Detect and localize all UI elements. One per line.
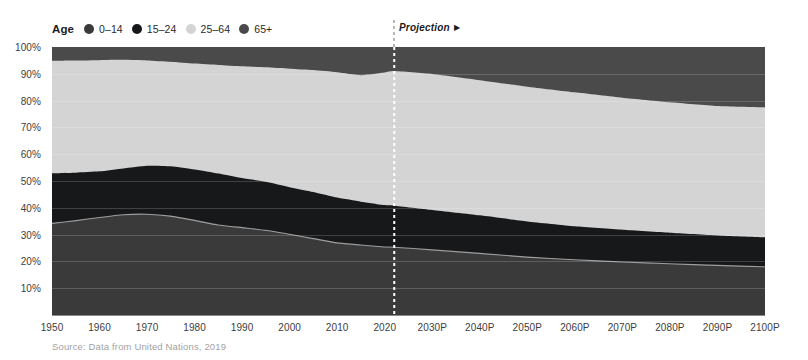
legend-item-15-24[interactable]: 15–24 <box>132 23 177 35</box>
circle-swatch-icon <box>132 24 142 34</box>
y-gridline <box>52 101 765 102</box>
legend-label: 65+ <box>254 23 272 35</box>
circle-swatch-icon <box>84 24 94 34</box>
y-axis-tick-label: 40% <box>21 202 41 213</box>
y-axis-tick-label: 50% <box>21 176 41 187</box>
y-gridline <box>52 74 765 75</box>
x-axis-tick-label: 1990 <box>231 322 254 333</box>
y-axis-tick-label: 70% <box>21 122 41 133</box>
x-axis-line <box>52 315 765 316</box>
projection-marker: Projection ▶ <box>399 22 460 33</box>
x-axis-tick-label: 1960 <box>88 322 111 333</box>
y-axis: 10%20%30%40%50%60%70%80%90%100% <box>0 40 48 322</box>
x-axis-tick-label: 1970 <box>136 322 159 333</box>
y-gridline <box>52 235 765 236</box>
y-axis-tick-label: 10% <box>21 283 41 294</box>
circle-swatch-icon <box>186 24 196 34</box>
legend: Age 0–14 15–24 25–64 65+ <box>52 21 272 37</box>
x-axis-tick-label: 2020 <box>373 322 396 333</box>
legend-label: 15–24 <box>147 23 177 35</box>
x-axis-tick-label: 2080P <box>655 322 684 333</box>
triangle-right-icon: ▶ <box>454 24 460 32</box>
x-axis-tick-label: 1980 <box>183 322 206 333</box>
legend-label: 0–14 <box>99 23 123 35</box>
x-axis-tick-label: 2050P <box>513 322 542 333</box>
y-axis-tick-label: 60% <box>21 149 41 160</box>
legend-item-25-64[interactable]: 25–64 <box>186 23 231 35</box>
projection-divider-stub <box>393 20 395 47</box>
y-gridline <box>52 181 765 182</box>
x-axis-tick-label: 2010 <box>326 322 349 333</box>
x-axis-tick-label: 1950 <box>41 322 64 333</box>
x-axis-tick-label: 2090P <box>703 322 732 333</box>
y-axis-tick-label: 80% <box>21 95 41 106</box>
y-gridline <box>52 154 765 155</box>
y-axis-tick-label: 20% <box>21 256 41 267</box>
y-axis-tick-label: 100% <box>15 42 41 53</box>
legend-item-65-plus[interactable]: 65+ <box>239 23 272 35</box>
x-axis-tick-label: 2030P <box>418 322 447 333</box>
circle-swatch-icon <box>239 24 249 34</box>
chart-page: Age 0–14 15–24 25–64 65+ Projection ▶ 10… <box>0 0 808 360</box>
legend-label: 25–64 <box>201 23 231 35</box>
x-axis-tick-label: 2000 <box>278 322 301 333</box>
y-axis-tick-label: 30% <box>21 229 41 240</box>
y-gridline <box>52 288 765 289</box>
source-note: Source: Data from United Nations, 2019 <box>52 341 226 352</box>
y-gridline <box>52 127 765 128</box>
x-axis-tick-label: 2070P <box>608 322 637 333</box>
legend-item-0-14[interactable]: 0–14 <box>84 23 123 35</box>
legend-title: Age <box>52 23 74 35</box>
y-axis-tick-label: 90% <box>21 68 41 79</box>
x-axis-tick-label: 2060P <box>560 322 589 333</box>
x-axis-tick-label: 2040P <box>465 322 494 333</box>
x-axis-tick-label: 2100P <box>750 322 779 333</box>
y-gridline <box>52 261 765 262</box>
y-gridline <box>52 208 765 209</box>
projection-label: Projection <box>399 22 450 33</box>
